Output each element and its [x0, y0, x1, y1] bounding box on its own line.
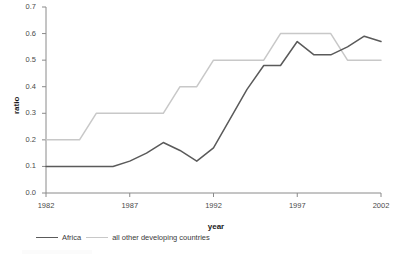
- x-axis-label-text: year: [208, 222, 224, 231]
- legend-item[interactable]: Africa: [36, 234, 81, 242]
- y-tick-label: 0.0: [12, 188, 36, 197]
- y-tick-label: 0.1: [12, 161, 36, 170]
- legend-line-swatch: [86, 237, 108, 238]
- y-tick-label: 0.6: [12, 29, 36, 38]
- x-tick-label: 2002: [361, 201, 396, 210]
- y-tick-label: 0.4: [12, 82, 36, 91]
- x-tick-label: 1997: [277, 201, 317, 210]
- series-line-africa: [46, 36, 381, 166]
- legend-label: all other developing countries: [112, 234, 210, 242]
- axes-group: [42, 7, 381, 197]
- y-tick-label: 0.2: [12, 135, 36, 144]
- y-tick-label: 0.5: [12, 55, 36, 64]
- chart-legend: Africaall other developing countries: [36, 234, 210, 242]
- series-line-all-other-developing-countries: [46, 34, 381, 140]
- bottom-edge-artifact: [22, 250, 92, 254]
- x-tick-label: 1987: [110, 201, 150, 210]
- legend-item[interactable]: all other developing countries: [86, 234, 210, 242]
- chart-container: ratio 0.00.10.20.30.40.50.60.7 198219871…: [0, 0, 396, 257]
- legend-label: Africa: [62, 234, 81, 242]
- series-group: [46, 34, 381, 167]
- x-tick-label: 1982: [26, 201, 66, 210]
- legend-line-swatch: [36, 237, 58, 238]
- x-axis-label: year: [0, 222, 396, 231]
- y-tick-label: 0.3: [12, 108, 36, 117]
- y-tick-label: 0.7: [12, 2, 36, 11]
- x-tick-label: 1992: [194, 201, 234, 210]
- line-chart-plot: [0, 0, 396, 257]
